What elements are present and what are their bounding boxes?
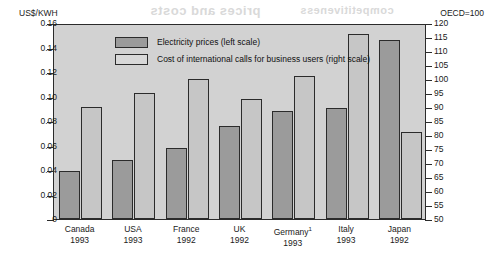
bar-electricity-price bbox=[379, 40, 400, 219]
category-name: Germany bbox=[274, 227, 309, 237]
left-tick-mark bbox=[47, 49, 54, 50]
left-tick-mark bbox=[47, 196, 54, 197]
right-tick-mark bbox=[425, 150, 432, 151]
category-name: Italy bbox=[338, 224, 354, 234]
left-tick-mark bbox=[47, 147, 54, 148]
category-year: 1992 bbox=[390, 235, 409, 245]
category-name: UK bbox=[234, 224, 246, 234]
legend-label-electricity: Electricity prices (left scale) bbox=[157, 37, 260, 47]
left-tick-mark bbox=[47, 122, 54, 123]
bar-electricity-price bbox=[59, 171, 80, 219]
bar-electricity-price bbox=[112, 160, 133, 219]
right-tick-label: 55 bbox=[434, 201, 443, 210]
left-tick-mark bbox=[47, 98, 54, 99]
bar-international-call-cost bbox=[188, 79, 209, 219]
right-tick-mark bbox=[425, 192, 432, 193]
right-tick-label: 95 bbox=[434, 89, 443, 98]
category-year: 1992 bbox=[230, 235, 249, 245]
right-tick-label: 75 bbox=[434, 145, 443, 154]
right-tick-label: 65 bbox=[434, 173, 443, 182]
category-label: Japan1992 bbox=[359, 224, 439, 246]
right-tick-label: 85 bbox=[434, 117, 443, 126]
legend-item-electricity: Electricity prices (left scale) bbox=[115, 36, 370, 48]
category-name: Canada bbox=[65, 224, 95, 234]
left-tick-mark bbox=[47, 220, 54, 221]
right-tick-label: 60 bbox=[434, 187, 443, 196]
left-tick-mark bbox=[47, 73, 54, 74]
right-tick-mark bbox=[425, 164, 432, 165]
bar-international-call-cost bbox=[401, 132, 422, 219]
category-year: 1993 bbox=[337, 235, 356, 245]
category-year: 1993 bbox=[283, 238, 302, 248]
right-tick-label: 105 bbox=[434, 61, 448, 70]
category-year: 1992 bbox=[177, 235, 196, 245]
left-tick-mark bbox=[47, 171, 54, 172]
right-tick-mark bbox=[425, 178, 432, 179]
left-tick-label: 0.10 bbox=[40, 93, 57, 102]
chart-legend: Electricity prices (left scale) Cost of … bbox=[115, 36, 370, 70]
legend-item-calls: Cost of international calls for business… bbox=[115, 53, 370, 65]
category-name: Japan bbox=[388, 224, 411, 234]
right-tick-mark bbox=[425, 24, 432, 25]
right-tick-label: 90 bbox=[434, 103, 443, 112]
category-year: 1993 bbox=[70, 235, 89, 245]
bar-chart-figure: US$/KWH OECD=100 Electricity prices (lef… bbox=[0, 0, 491, 257]
right-tick-label: 115 bbox=[434, 33, 448, 42]
right-tick-mark bbox=[425, 206, 432, 207]
right-tick-mark bbox=[425, 52, 432, 53]
left-tick-mark bbox=[47, 24, 54, 25]
right-tick-mark bbox=[425, 136, 432, 137]
left-tick-label: 0.06 bbox=[40, 142, 57, 151]
right-tick-label: 110 bbox=[434, 47, 448, 56]
right-tick-mark bbox=[425, 80, 432, 81]
bar-international-call-cost bbox=[294, 76, 315, 219]
right-tick-label: 70 bbox=[434, 159, 443, 168]
right-tick-label: 100 bbox=[434, 75, 448, 84]
legend-swatch-calls bbox=[115, 54, 148, 65]
legend-label-calls: Cost of international calls for business… bbox=[157, 54, 370, 64]
bar-electricity-price bbox=[166, 148, 187, 219]
category-year: 1993 bbox=[123, 235, 142, 245]
left-tick-label: 0.14 bbox=[40, 44, 57, 53]
bar-international-call-cost bbox=[241, 99, 262, 219]
category-name: France bbox=[173, 224, 199, 234]
right-tick-mark bbox=[425, 108, 432, 109]
right-tick-mark bbox=[425, 66, 432, 67]
bar-electricity-price bbox=[272, 111, 293, 219]
legend-swatch-electricity bbox=[115, 37, 148, 48]
right-axis-unit-label: OECD=100 bbox=[440, 8, 484, 18]
right-tick-mark bbox=[425, 38, 432, 39]
right-tick-label: 50 bbox=[434, 215, 443, 224]
bar-international-call-cost bbox=[81, 107, 102, 219]
left-axis-unit-label: US$/KWH bbox=[19, 8, 58, 18]
right-tick-label: 120 bbox=[434, 19, 448, 28]
category-name: USA bbox=[124, 224, 141, 234]
right-tick-label: 80 bbox=[434, 131, 443, 140]
bar-international-call-cost bbox=[134, 93, 155, 219]
right-tick-mark bbox=[425, 122, 432, 123]
bar-electricity-price bbox=[219, 126, 240, 219]
right-tick-mark bbox=[425, 220, 432, 221]
plot-area: Electricity prices (left scale) Cost of … bbox=[53, 24, 426, 220]
bar-electricity-price bbox=[326, 108, 347, 219]
right-tick-mark bbox=[425, 94, 432, 95]
left-tick-label: 0.02 bbox=[40, 191, 57, 200]
